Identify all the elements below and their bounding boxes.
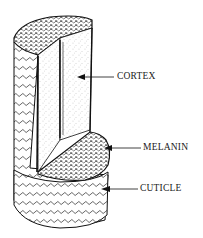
label-cuticle: CUTICLE — [140, 183, 182, 193]
label-cortex: CORTEX — [117, 71, 156, 81]
label-melanin: MELANIN — [143, 142, 188, 152]
hair-structure-diagram — [0, 0, 203, 238]
